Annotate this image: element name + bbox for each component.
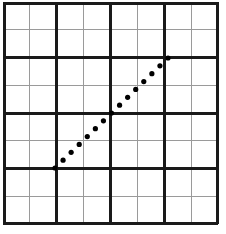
data-point-marker	[141, 79, 146, 84]
data-point-marker	[52, 165, 57, 170]
grid-plot-canvas	[0, 0, 226, 234]
data-point-marker	[117, 103, 122, 108]
data-point-marker	[165, 55, 170, 60]
data-point-marker	[60, 158, 65, 163]
data-point-marker	[69, 150, 74, 155]
data-point-marker	[149, 71, 154, 76]
data-point-marker	[133, 87, 138, 92]
data-point-marker	[101, 118, 106, 123]
data-point-marker	[85, 134, 90, 139]
data-point-marker	[125, 95, 130, 100]
plot-background	[0, 0, 226, 234]
data-point-marker	[93, 126, 98, 131]
data-point-marker	[157, 63, 162, 68]
data-point-marker	[77, 142, 82, 147]
data-point-marker	[109, 110, 114, 115]
plot-svg	[0, 0, 226, 234]
